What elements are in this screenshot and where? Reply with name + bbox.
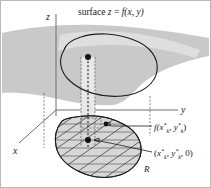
surface-integral-diagram: z y x [0, 0, 211, 188]
region-point-dot [85, 137, 91, 143]
y-axis-label: y [180, 104, 186, 115]
surface-sheet [2, 25, 209, 105]
region-R: R [40, 105, 165, 188]
svg-text:f(x*k, y*k): f(x*k, y*k) [154, 122, 186, 134]
svg-text:(x*k, y*k, 0): (x*k, y*k, 0) [154, 148, 193, 160]
x-axis-label: x [12, 145, 18, 156]
figure-container: z y x [0, 0, 211, 188]
x-axis: x [12, 110, 56, 156]
bp-zero: , 0) [181, 148, 193, 158]
x-axis-line [19, 110, 56, 143]
region-label: R [143, 164, 150, 174]
function-value-label: f(x*k, y*k) [154, 122, 186, 134]
surface-point-dot [85, 54, 91, 60]
z-axis-label: z [45, 11, 50, 22]
y-axis: y [56, 104, 186, 115]
figure-title: surface z = f(x, y) [78, 7, 144, 18]
title-function: f(x, y) [122, 7, 144, 18]
title-word: surface [78, 7, 105, 17]
fv-close: ) [183, 122, 186, 132]
base-point-label: (x*k, y*k, 0) [154, 148, 193, 160]
title-text: surface z = f(x, y) [78, 7, 144, 18]
